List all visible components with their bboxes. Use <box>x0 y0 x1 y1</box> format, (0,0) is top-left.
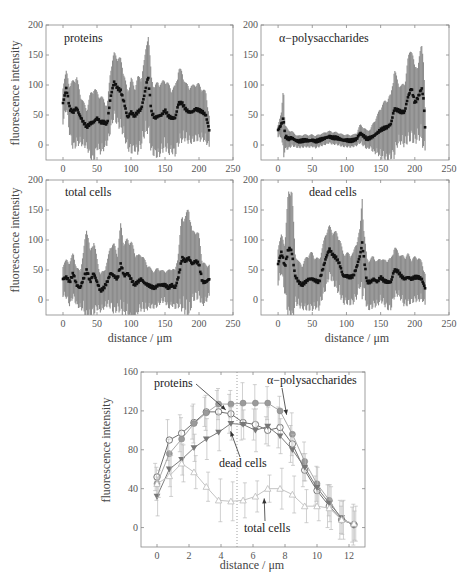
y-tick-label: 150 <box>243 204 258 215</box>
ylabel-bottom: fluorescence intensity <box>99 398 113 503</box>
x-tick-label: 200 <box>407 163 422 174</box>
y-tick-label: 200 <box>243 174 258 185</box>
annotation-arrow <box>196 384 226 410</box>
x-tick-label: 150 <box>373 318 388 329</box>
x-tick-label: 50 <box>92 163 102 174</box>
y-tick-label: 0 <box>133 522 138 533</box>
x-tick-label: 100 <box>339 163 354 174</box>
chart-top-left: 050100150200250050100150200 <box>28 19 241 174</box>
panel-title-proteins: proteins <box>64 31 103 45</box>
x-tick-label: 100 <box>124 318 139 329</box>
x-tick-label: 12 <box>344 550 354 561</box>
y-tick-label: 80 <box>128 444 138 455</box>
x-tick-label: 10 <box>312 550 322 561</box>
y-tick-label: 50 <box>33 109 43 120</box>
panel-title-dead-cells: dead cells <box>309 185 357 199</box>
figure: 0501001502002500501001502000501001502002… <box>0 0 473 580</box>
ylabel-top-left: fluorescence intensity <box>8 41 22 146</box>
series-line-deadcells <box>157 424 354 526</box>
y-tick-label: 100 <box>243 234 258 245</box>
annotation-polysaccharides: α−polysaccharides <box>267 373 357 387</box>
x-tick-label: 200 <box>192 318 207 329</box>
x-tick-label: 150 <box>158 163 173 174</box>
y-tick-label: 50 <box>33 264 43 275</box>
y-tick-label: 100 <box>28 234 43 245</box>
y-tick-label: 120 <box>123 405 138 416</box>
y-tick-label: 150 <box>243 49 258 60</box>
x-tick-label: 250 <box>226 318 241 329</box>
y-tick-label: 100 <box>243 79 258 90</box>
x-tick-label: 200 <box>192 163 207 174</box>
ylabel-middle-left: fluorescence intensity <box>8 188 22 293</box>
y-tick-label: 200 <box>243 19 258 30</box>
y-tick-label: 150 <box>28 204 43 215</box>
y-tick-label: 0 <box>253 294 258 305</box>
x-tick-label: 100 <box>124 163 139 174</box>
y-tick-label: 0 <box>38 294 43 305</box>
x-tick-label: 250 <box>226 163 241 174</box>
x-tick-label: 150 <box>373 163 388 174</box>
y-tick-label: 160 <box>123 366 138 377</box>
xlabel-middle-right: distance / μm <box>325 331 390 345</box>
x-tick-label: 50 <box>307 318 317 329</box>
y-tick-label: 50 <box>248 264 258 275</box>
y-tick-label: 0 <box>38 139 43 150</box>
y-tick-label: 150 <box>28 49 43 60</box>
annotation-total-cells: total cells <box>244 521 291 535</box>
x-tick-label: 0 <box>155 550 160 561</box>
y-tick-label: 200 <box>28 19 43 30</box>
annotation-dead-cells: dead cells <box>219 456 267 470</box>
x-tick-label: 200 <box>407 318 422 329</box>
panel-title-total-cells: total cells <box>65 185 112 199</box>
x-tick-label: 250 <box>442 318 457 329</box>
x-tick-label: 150 <box>158 318 173 329</box>
y-tick-label: 0 <box>253 139 258 150</box>
x-tick-label: 0 <box>61 163 66 174</box>
x-tick-label: 0 <box>276 318 281 329</box>
panel-title-polysaccharides: α−polysaccharides <box>279 31 369 45</box>
xlabel-middle-left: distance / μm <box>108 331 173 345</box>
x-tick-label: 100 <box>339 318 354 329</box>
y-tick-label: 50 <box>248 109 258 120</box>
y-tick-label: 100 <box>28 79 43 90</box>
xlabel-bottom: distance / μm <box>220 558 285 572</box>
x-tick-label: 50 <box>92 318 102 329</box>
y-tick-label: 40 <box>128 483 138 494</box>
annotation-proteins: proteins <box>154 376 193 390</box>
panels: 0501001502002500501001502000501001502002… <box>28 19 457 561</box>
y-tick-label: 200 <box>28 174 43 185</box>
x-tick-label: 0 <box>61 318 66 329</box>
x-tick-label: 50 <box>307 163 317 174</box>
x-tick-label: 250 <box>442 163 457 174</box>
x-tick-label: 2 <box>187 550 192 561</box>
chart-middle-left: 050100150200250050100150200 <box>28 174 241 329</box>
x-tick-label: 0 <box>276 163 281 174</box>
